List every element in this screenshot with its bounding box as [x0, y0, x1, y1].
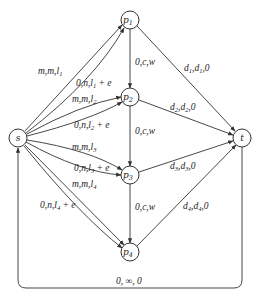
label-p1-t: d1,d1,0: [184, 63, 210, 74]
edge-s-p4-straight: [25, 145, 124, 245]
node-p4: p4: [121, 243, 139, 261]
label-t-s-return: 0, ∞, 0: [116, 276, 142, 286]
svg-text:t: t: [240, 133, 244, 143]
node-p1: p1: [121, 11, 139, 29]
node-t: t: [233, 129, 251, 147]
label-s-p3-curved: 0,n,l3 + e: [74, 163, 110, 174]
label-p4-t: d4,d4,0: [183, 201, 209, 212]
label-p3-p4: 0,c,w: [135, 202, 156, 212]
label-s-p4-straight: m,m,l4: [72, 179, 97, 190]
label-s-p4-curved: 0,n,l4 + e: [40, 200, 76, 211]
svg-text:s: s: [16, 133, 21, 143]
edge-p4-t: [137, 145, 236, 246]
node-s: s: [9, 129, 27, 147]
label-p3-t: d3,d3,0: [170, 161, 196, 172]
label-s-p3-straight: m,m,l3: [72, 142, 97, 153]
label-s-p1-curved: 0,n,l1 + e: [76, 78, 112, 89]
edge-s-p2-curved: [27, 102, 122, 136]
edge-s-p4-curved: [24, 146, 122, 248]
label-s-p1-straight: m,m,l1: [38, 66, 62, 77]
label-p2-t: d2,d2,0: [170, 102, 196, 113]
label-p2-p3: 0,c,w: [135, 126, 156, 136]
label-s-p2-curved: 0,n,l2 + e: [74, 120, 110, 131]
edge-p1-t: [137, 26, 235, 131]
node-p3: p3: [121, 166, 139, 184]
label-p1-p2: 0,c,w: [135, 57, 156, 67]
label-s-p2-straight: m,m,l2: [72, 94, 97, 105]
node-p2: p2: [121, 88, 139, 106]
flow-network-diagram: s t p1 p2 p3 p4 m,m,l1 0,n,l1 + e m,m,l2…: [0, 0, 259, 303]
